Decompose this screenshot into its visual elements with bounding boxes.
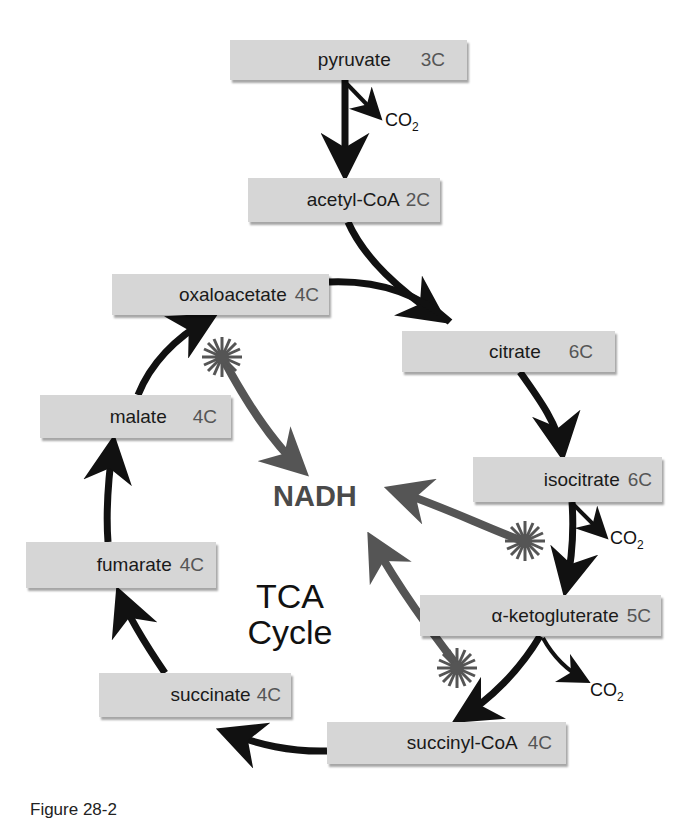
metabolite-name: citrate — [489, 341, 541, 363]
metabolite-name: α-ketogluterate — [492, 605, 619, 627]
co2-label-akg: CO2 — [590, 680, 624, 704]
carbon-count: 4C — [193, 406, 217, 428]
metabolite-fumarate: fumarate 4C — [26, 542, 216, 588]
co2-arrow-pyruvate — [347, 84, 378, 116]
starburst-icon — [202, 337, 242, 377]
co2-text: CO — [590, 680, 617, 700]
co2-arrow-akg — [543, 638, 585, 680]
starburst-icon — [505, 521, 545, 561]
metabolite-name: succinyl-CoA — [407, 732, 518, 754]
carbon-count: 4C — [180, 554, 204, 576]
arrow-succinyl-coa-to-succinate — [225, 732, 327, 751]
arrow-citrate-to-isocitrate — [520, 372, 562, 452]
co2-label-pyruvate: CO2 — [385, 110, 419, 134]
cycle-title: TCA Cycle — [240, 578, 340, 650]
co2-text: CO — [610, 528, 637, 548]
metabolite-name: acetyl-CoA — [307, 189, 400, 211]
metabolite-name: succinate — [170, 684, 250, 706]
metabolite-succinyl-coa: succinyl-CoA 4C — [327, 722, 566, 764]
metabolite-citrate: citrate 6C — [402, 331, 615, 372]
metabolite-name: oxaloacetate — [179, 284, 287, 306]
metabolite-alpha-ketogluterate: α-ketogluterate 5C — [420, 595, 661, 636]
metabolite-isocitrate: isocitrate 6C — [473, 457, 662, 502]
co2-subscript: 2 — [617, 690, 624, 704]
metabolite-name: pyruvate — [318, 49, 391, 71]
co2-subscript: 2 — [412, 120, 419, 134]
metabolite-name: malate — [110, 406, 167, 428]
carbon-count: 3C — [421, 49, 445, 71]
carbon-count: 5C — [627, 605, 651, 627]
metabolite-name: isocitrate — [544, 469, 620, 491]
carbon-count: 4C — [257, 684, 281, 706]
cycle-title-line-1: TCA — [240, 578, 340, 614]
metabolite-oxaloacetate: oxaloacetate 4C — [112, 274, 329, 315]
arrow-malate-to-oxaloacetate — [138, 318, 210, 395]
arrow-succinate-to-fumarate — [120, 595, 165, 673]
carbon-count: 4C — [295, 284, 319, 306]
metabolite-malate: malate 4C — [40, 395, 231, 438]
nadh-label: NADH — [273, 480, 357, 513]
metabolite-pyruvate: pyruvate 3C — [230, 40, 467, 80]
figure-caption: Figure 28-2 — [30, 800, 117, 820]
arrow-isocitrate-to-akg — [566, 502, 573, 588]
arrow-akg-to-succinyl-coa — [460, 636, 540, 718]
cycle-title-line-2: Cycle — [240, 614, 340, 650]
starburst-icon — [437, 648, 477, 688]
carbon-count: 4C — [528, 732, 552, 754]
carbon-count: 6C — [569, 341, 593, 363]
co2-subscript: 2 — [637, 538, 644, 552]
nadh-arrow-malate — [222, 357, 302, 470]
carbon-count: 6C — [628, 469, 652, 491]
metabolite-succinate: succinate 4C — [99, 673, 291, 717]
co2-text: CO — [385, 110, 412, 130]
co2-arrow-isocitrate — [574, 505, 604, 535]
co2-label-isocitrate: CO2 — [610, 528, 644, 552]
metabolite-acetyl-coa: acetyl-CoA 2C — [248, 178, 440, 222]
arrow-fumarate-to-malate — [107, 444, 113, 542]
carbon-count: 2C — [406, 189, 430, 211]
metabolite-name: fumarate — [97, 554, 172, 576]
